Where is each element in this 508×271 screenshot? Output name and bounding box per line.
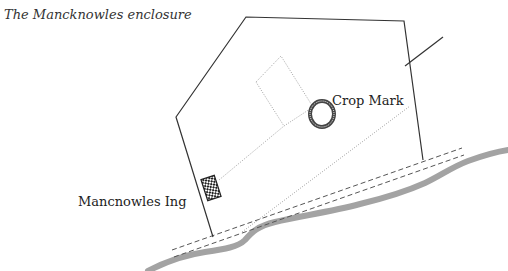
map-title: The Mancknowles enclosure (4, 7, 192, 22)
mancnowles-ing-marker (201, 175, 221, 200)
crop-mark-label: Crop Mark (332, 93, 404, 108)
map-drawing (0, 0, 508, 271)
enclosure-boundary (176, 17, 423, 237)
track (172, 148, 464, 257)
river (148, 150, 508, 271)
mancnowles-ing-label: Mancnowles Ing (78, 194, 187, 209)
enclosure-map: The Mancknowles enclosure Crop Mark Manc… (0, 0, 508, 271)
crop-mark (310, 101, 334, 127)
boundary-spur (405, 37, 443, 66)
inner-enclosure (219, 56, 410, 232)
